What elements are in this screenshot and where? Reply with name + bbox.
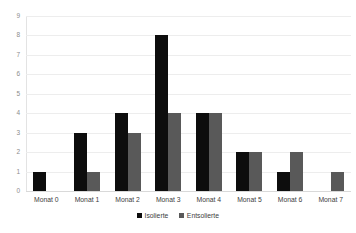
bar-slot [209, 16, 222, 191]
bar-slot [277, 16, 290, 191]
axis-baseline [26, 191, 351, 192]
legend-item[interactable]: Entsolierte [179, 213, 219, 220]
bar-slot [290, 16, 303, 191]
bar[interactable] [236, 152, 249, 191]
bar-group [310, 16, 351, 191]
bar[interactable] [155, 35, 168, 191]
bar-group [107, 16, 148, 191]
x-axis-category-label: Monat 1 [67, 193, 108, 207]
plot-area [26, 16, 351, 191]
x-axis-category-label: Monat 2 [107, 193, 148, 207]
bar-slot [115, 16, 128, 191]
bar-group [229, 16, 270, 191]
bar[interactable] [209, 113, 222, 191]
bar-slot [236, 16, 249, 191]
legend-swatch-icon [137, 213, 142, 218]
bar-group [270, 16, 311, 191]
y-axis-tick-label: 1 [16, 168, 20, 175]
legend: IsolierteEntsolierte [0, 209, 356, 223]
y-axis-tick-label: 0 [16, 188, 20, 195]
x-axis-category-label: Monat 6 [270, 193, 311, 207]
bar-chart: 0123456789 Monat 0Monat 1Monat 2Monat 3M… [0, 0, 356, 233]
bar-group [189, 16, 230, 191]
x-axis-category-label: Monat 0 [26, 193, 67, 207]
bar[interactable] [87, 172, 100, 191]
x-axis-category-label: Monat 4 [189, 193, 230, 207]
bar-slot [168, 16, 181, 191]
bar-slot [249, 16, 262, 191]
bar-group [148, 16, 189, 191]
bar[interactable] [168, 113, 181, 191]
bar[interactable] [115, 113, 128, 191]
y-axis-tick-label: 8 [16, 32, 20, 39]
bar-slot [331, 16, 344, 191]
bar-slot [196, 16, 209, 191]
bar-slot [33, 16, 46, 191]
y-axis-tick-label: 6 [16, 71, 20, 78]
x-axis-category-label: Monat 5 [229, 193, 270, 207]
y-axis: 0123456789 [0, 16, 24, 191]
bar-slot [46, 16, 59, 191]
bar[interactable] [331, 172, 344, 191]
bar-slot [87, 16, 100, 191]
y-axis-tick-label: 2 [16, 149, 20, 156]
bar-slot [155, 16, 168, 191]
y-axis-tick-label: 9 [16, 13, 20, 20]
x-axis-category-label: Monat 7 [310, 193, 351, 207]
bar-group [26, 16, 67, 191]
bar-group [67, 16, 108, 191]
bar-groups [26, 16, 351, 191]
legend-swatch-icon [179, 213, 184, 218]
y-axis-tick-label: 4 [16, 110, 20, 117]
bar[interactable] [74, 133, 87, 191]
legend-label: Entsolierte [187, 213, 219, 220]
x-axis-labels: Monat 0Monat 1Monat 2Monat 3Monat 4Monat… [26, 193, 351, 207]
bar[interactable] [128, 133, 141, 191]
y-axis-tick-label: 5 [16, 91, 20, 98]
y-axis-tick-label: 3 [16, 129, 20, 136]
bar[interactable] [249, 152, 262, 191]
bar[interactable] [290, 152, 303, 191]
bar-slot [128, 16, 141, 191]
bar[interactable] [196, 113, 209, 191]
y-axis-tick-label: 7 [16, 52, 20, 59]
bar-slot [74, 16, 87, 191]
legend-label: Isolierte [145, 213, 169, 220]
bar[interactable] [33, 172, 46, 191]
x-axis-category-label: Monat 3 [148, 193, 189, 207]
bar[interactable] [277, 172, 290, 191]
bar-slot [318, 16, 331, 191]
legend-item[interactable]: Isolierte [137, 213, 168, 220]
